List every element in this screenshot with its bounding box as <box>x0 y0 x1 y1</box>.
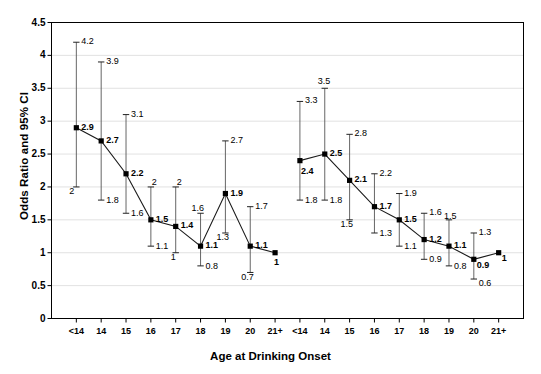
data-value-label: 2.5 <box>330 148 343 158</box>
ci-upper-label: 2.2 <box>379 168 392 178</box>
y-tick-label: 1.5 <box>12 214 46 225</box>
ci-lower-label: 1.3 <box>216 232 229 242</box>
data-value-label: 1.1 <box>255 240 268 250</box>
ci-lower-label: 0.8 <box>206 261 219 271</box>
ci-lower-label: 0.7 <box>241 272 254 282</box>
ci-upper-label: 2.7 <box>230 135 243 145</box>
ci-upper-label: 4.2 <box>81 36 94 46</box>
ci-upper-label: 2 <box>177 177 182 187</box>
chart-figure: Odds Ratio and 95% CI Age at Drinking On… <box>0 0 541 374</box>
data-value-label: 1.7 <box>379 201 392 211</box>
chart-canvas <box>0 0 541 374</box>
data-value-label: 1.9 <box>230 188 243 198</box>
data-value-label: 1.1 <box>206 240 219 250</box>
y-tick-label: 3.5 <box>12 82 46 93</box>
x-axis-title: Age at Drinking Onset <box>0 350 541 362</box>
y-tick-label: 3 <box>12 115 46 126</box>
ci-lower-label: 1 <box>171 252 176 262</box>
ci-lower-label: 1.8 <box>330 195 343 205</box>
data-value-label: 1.5 <box>404 214 417 224</box>
data-value-label: 1.5 <box>156 214 169 224</box>
ci-upper-label: 3.1 <box>131 109 144 119</box>
ci-lower-label: 1.8 <box>106 195 119 205</box>
y-tick-label: 1 <box>12 247 46 258</box>
ci-upper-label: 3.3 <box>305 95 318 105</box>
ci-upper-label: 2 <box>152 177 157 187</box>
ci-upper-label: 1.3 <box>479 227 492 237</box>
ci-lower-label: 1.1 <box>156 241 169 251</box>
ci-lower-label: 1.1 <box>404 241 417 251</box>
ci-lower-label: 0.8 <box>454 261 467 271</box>
y-tick-label: 0 <box>12 313 46 324</box>
ci-upper-label: 1.5 <box>444 211 457 221</box>
ci-lower-label: 1.5 <box>341 219 354 229</box>
y-tick-label: 2.5 <box>12 148 46 159</box>
x-tick-label: 21+ <box>484 326 514 336</box>
ci-lower-label: 0.6 <box>479 278 492 288</box>
data-value-label: 2.7 <box>106 135 119 145</box>
ci-upper-label: 3.5 <box>318 76 331 86</box>
ci-lower-label: 1.6 <box>131 208 144 218</box>
y-tick-label: 0.5 <box>12 280 46 291</box>
data-value-label: 2.9 <box>81 122 94 132</box>
data-value-label: 1.1 <box>454 240 467 250</box>
data-value-label: 2.2 <box>131 168 144 178</box>
data-value-label: 1 <box>502 253 507 263</box>
y-tick-label: 2 <box>12 181 46 192</box>
y-tick-label: 4 <box>12 49 46 60</box>
data-value-label: 0.9 <box>477 260 490 270</box>
ci-upper-label: 1.6 <box>192 203 205 213</box>
ci-upper-label: 1.6 <box>429 207 442 217</box>
data-value-label: 1.2 <box>429 234 442 244</box>
data-value-label: 1.4 <box>181 220 194 230</box>
ci-lower-label: 0.9 <box>429 254 442 264</box>
ci-lower-label: 1.3 <box>379 228 392 238</box>
y-tick-label: 4.5 <box>12 17 46 28</box>
ci-lower-label: 1.8 <box>305 195 318 205</box>
ci-lower-label: 2 <box>69 186 74 196</box>
data-value-label: 2.1 <box>355 174 368 184</box>
data-value-label: 2.4 <box>301 166 314 176</box>
ci-upper-label: 1.7 <box>255 201 268 211</box>
ci-upper-label: 3.9 <box>106 56 119 66</box>
ci-upper-label: 2.8 <box>355 128 368 138</box>
ci-upper-label: 1.9 <box>404 188 417 198</box>
data-value-label: 1 <box>274 257 279 267</box>
